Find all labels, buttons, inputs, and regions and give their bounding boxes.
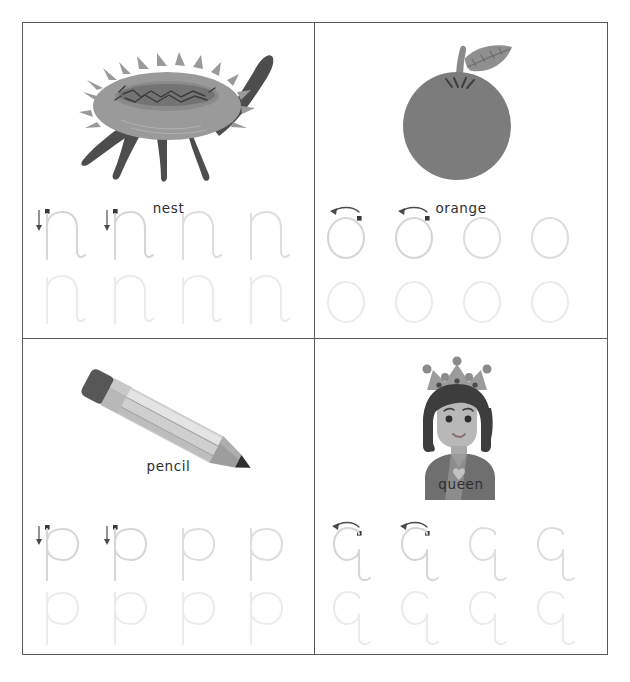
trace-glyph-o[interactable] xyxy=(325,268,393,332)
trace-glyph-o[interactable] xyxy=(529,268,597,332)
trace-glyph-p[interactable] xyxy=(169,520,237,584)
trace-rows-p xyxy=(23,520,314,648)
trace-glyph-o[interactable] xyxy=(461,268,529,332)
trace-glyph-p[interactable] xyxy=(101,584,169,648)
pencil-illustration xyxy=(23,345,314,505)
trace-glyph-o[interactable] xyxy=(393,268,461,332)
trace-glyph-p[interactable] xyxy=(237,520,305,584)
trace-row-p-1 xyxy=(23,520,314,584)
trace-row-q-1 xyxy=(315,520,607,584)
trace-glyph-o[interactable] xyxy=(529,204,597,268)
trace-glyph-n[interactable] xyxy=(237,268,305,332)
worksheet-cell-orange: orange xyxy=(315,23,607,339)
trace-glyph-q[interactable] xyxy=(393,584,461,648)
trace-rows-q xyxy=(315,520,607,648)
trace-row-n-1 xyxy=(23,204,314,268)
nest-illustration xyxy=(23,29,314,189)
trace-row-p-2 xyxy=(23,584,314,648)
trace-glyph-q[interactable] xyxy=(529,520,597,584)
trace-glyph-n[interactable] xyxy=(169,204,237,268)
trace-glyph-q[interactable] xyxy=(325,520,393,584)
worksheet-cell-nest: nest xyxy=(23,23,315,339)
trace-glyph-p[interactable] xyxy=(33,584,101,648)
trace-glyph-n[interactable] xyxy=(237,204,305,268)
trace-glyph-n[interactable] xyxy=(33,204,101,268)
worksheet-sheet: nest xyxy=(22,22,608,655)
trace-glyph-o[interactable] xyxy=(461,204,529,268)
worksheet-cell-queen: queen xyxy=(315,339,607,655)
trace-row-o-1 xyxy=(315,204,607,268)
trace-row-o-2 xyxy=(315,268,607,332)
trace-glyph-o[interactable] xyxy=(393,204,461,268)
trace-row-n-2 xyxy=(23,268,314,332)
trace-glyph-p[interactable] xyxy=(33,520,101,584)
trace-glyph-q[interactable] xyxy=(461,520,529,584)
word-label-pencil: pencil xyxy=(23,458,314,474)
trace-glyph-q[interactable] xyxy=(529,584,597,648)
word-label-queen: queen xyxy=(315,476,607,492)
trace-glyph-p[interactable] xyxy=(101,520,169,584)
trace-glyph-n[interactable] xyxy=(101,268,169,332)
trace-glyph-o[interactable] xyxy=(325,204,393,268)
worksheet-cell-pencil: pencil xyxy=(23,339,315,655)
trace-rows-n xyxy=(23,204,314,332)
trace-glyph-q[interactable] xyxy=(461,584,529,648)
trace-glyph-p[interactable] xyxy=(237,584,305,648)
trace-rows-o xyxy=(315,204,607,332)
trace-row-q-2 xyxy=(315,584,607,648)
trace-glyph-n[interactable] xyxy=(33,268,101,332)
orange-illustration xyxy=(315,29,607,189)
trace-glyph-q[interactable] xyxy=(325,584,393,648)
trace-glyph-p[interactable] xyxy=(169,584,237,648)
trace-glyph-q[interactable] xyxy=(393,520,461,584)
trace-glyph-n[interactable] xyxy=(169,268,237,332)
trace-glyph-n[interactable] xyxy=(101,204,169,268)
